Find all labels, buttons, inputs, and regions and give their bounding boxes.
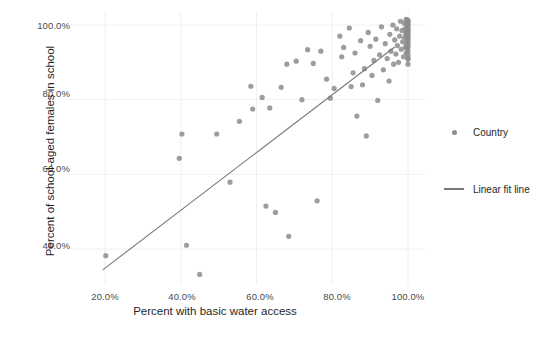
scatter-point xyxy=(393,52,398,57)
scatter-point xyxy=(391,62,396,67)
scatter-point xyxy=(197,272,202,277)
scatter-point xyxy=(214,131,219,136)
scatter-point xyxy=(179,131,184,136)
scatter-point xyxy=(354,113,359,118)
legend-item-fit-line[interactable]: Linear fit line xyxy=(441,182,530,196)
scatter-point xyxy=(311,61,316,66)
scatter-point xyxy=(358,38,363,43)
scatter-point xyxy=(237,119,242,124)
scatter-point xyxy=(368,44,373,49)
scatter-point xyxy=(386,78,391,83)
scatter-point xyxy=(332,86,337,91)
y-axis-title: Percent of school-aged females in school xyxy=(44,1,56,301)
scatter-point xyxy=(284,62,289,67)
plot-area xyxy=(0,0,543,339)
scatter-point xyxy=(352,50,357,55)
scatter-point xyxy=(405,25,410,30)
scatter-point xyxy=(395,43,400,48)
legend-item-country[interactable]: Country xyxy=(441,125,508,139)
scatter-point xyxy=(341,45,346,50)
legend-dot-icon xyxy=(441,130,467,135)
scatter-point xyxy=(387,32,392,37)
scatter-point xyxy=(373,37,378,42)
scatter-point xyxy=(349,84,354,89)
scatter-point xyxy=(286,234,291,239)
x-tick-label-80: 80.0% xyxy=(307,291,367,302)
scatter-point xyxy=(227,180,232,185)
scatter-point xyxy=(366,30,371,35)
scatter-point xyxy=(369,73,374,78)
scatter-chart: 100.0% 80.0% 60.0% 40.0% 20.0% 40.0% 60.… xyxy=(0,0,543,339)
scatter-point xyxy=(396,60,401,65)
scatter-point xyxy=(405,34,410,39)
scatter-point xyxy=(392,37,397,42)
scatter-point xyxy=(324,77,329,82)
scatter-point xyxy=(260,95,265,100)
scatter-point xyxy=(350,70,355,75)
scatter-point xyxy=(379,24,384,29)
scatter-point xyxy=(315,198,320,203)
scatter-point xyxy=(347,25,352,30)
legend-line-icon xyxy=(441,188,467,189)
fit-line-path xyxy=(103,47,395,270)
scatter-point xyxy=(405,49,410,54)
scatter-point xyxy=(177,156,182,161)
scatter-point xyxy=(318,49,323,54)
scatter-point xyxy=(103,253,108,258)
scatter-point xyxy=(339,54,344,59)
scatter-point xyxy=(397,34,402,39)
legend-label-country: Country xyxy=(467,127,508,138)
scatter-point xyxy=(305,47,310,52)
scatter-point xyxy=(381,67,386,72)
scatter-point xyxy=(360,82,365,87)
scatter-point xyxy=(385,56,390,61)
x-tick-label-40: 40.0% xyxy=(152,291,212,302)
x-tick-label-100: 100.0% xyxy=(378,291,438,302)
scatter-point xyxy=(364,133,369,138)
scatter-point xyxy=(299,97,304,102)
scatter-point xyxy=(267,105,272,110)
scatter-point xyxy=(263,203,268,208)
linear-fit-line xyxy=(103,47,395,270)
scatter-point xyxy=(337,34,342,39)
scatter-point xyxy=(390,22,395,27)
scatter-point xyxy=(405,42,410,47)
gridlines xyxy=(68,12,425,285)
scatter-point xyxy=(375,98,380,103)
x-tick-label-20: 20.0% xyxy=(75,291,135,302)
scatter-point xyxy=(383,41,388,46)
scatter-point xyxy=(279,85,284,90)
scatter-point xyxy=(248,84,253,89)
legend-label-fit-line: Linear fit line xyxy=(467,184,530,195)
scatter-point xyxy=(394,26,399,31)
scatter-point xyxy=(405,55,410,60)
x-axis-title: Percent with basic water access xyxy=(0,305,430,317)
scatter-point xyxy=(184,243,189,248)
x-tick-label-60: 60.0% xyxy=(230,291,290,302)
scatter-point xyxy=(405,62,410,67)
scatter-point xyxy=(294,59,299,64)
scatter-point xyxy=(273,210,278,215)
scatter-point xyxy=(250,106,255,111)
